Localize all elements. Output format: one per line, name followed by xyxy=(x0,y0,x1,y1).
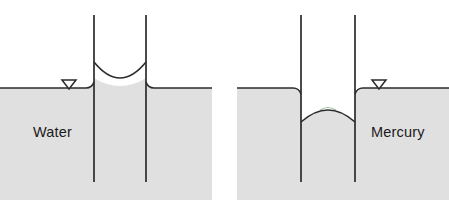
water-surface-line-right xyxy=(146,82,212,88)
water-surface-line-left xyxy=(0,82,94,88)
mercury-liquid-body xyxy=(237,88,449,200)
panel-water xyxy=(0,15,212,200)
water-liquid-body xyxy=(0,78,212,200)
mercury-label: Mercury xyxy=(371,124,425,140)
water-label: Water xyxy=(33,124,72,140)
water-meniscus-concave xyxy=(94,62,146,78)
figure-canvas: Water Mercury xyxy=(0,0,449,212)
capillary-action-figure: Water Mercury xyxy=(0,0,449,212)
panel-mercury xyxy=(237,15,449,200)
